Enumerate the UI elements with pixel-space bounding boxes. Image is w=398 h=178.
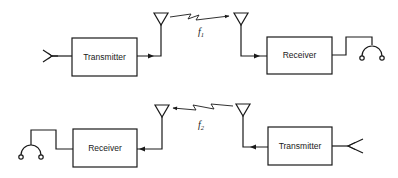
frequency-label-f2: f2 (198, 119, 205, 131)
antenna-to-receiver-wire (137, 117, 162, 149)
microphone-icon (348, 139, 363, 153)
receiver-to-headphones-wire (332, 37, 372, 55)
transmitter-1: Transmitter (72, 38, 137, 76)
transmitter-to-antenna-wire (137, 24, 161, 56)
antenna-icon (236, 104, 250, 116)
receiver-2: Receiver (73, 129, 137, 167)
antenna-icon (154, 13, 168, 25)
transmitter-1-label: Transmitter (83, 52, 126, 62)
radio-wave-f2: f2 (173, 104, 233, 131)
receiver-1-label: Receiver (283, 50, 317, 60)
signal-arrow (148, 54, 154, 59)
receiver-to-headphones-wire (31, 130, 73, 149)
link-2: Receiver f2 Transmitter (19, 104, 363, 167)
signal-arrow (139, 147, 145, 152)
transmitter-to-antenna-wire (243, 116, 268, 147)
headphones-icon (360, 46, 384, 60)
link-1: Transmitter f1 Receiver (43, 13, 384, 76)
signal-arrow (250, 145, 256, 150)
signal-arrow (254, 54, 260, 59)
receiver-2-label: Receiver (88, 143, 122, 153)
transmitter-2: Transmitter (268, 127, 332, 165)
duplex-radio-link-diagram: Transmitter f1 Receiver (0, 0, 398, 178)
antenna-to-receiver-wire (241, 25, 267, 56)
frequency-label-f1: f1 (198, 26, 204, 38)
antenna-icon (155, 105, 169, 117)
antenna-icon (234, 13, 248, 25)
transmitter-2-label: Transmitter (279, 141, 322, 151)
receiver-1: Receiver (267, 37, 332, 74)
headphones-icon (19, 145, 43, 159)
radio-wave-f1: f1 (170, 14, 229, 38)
